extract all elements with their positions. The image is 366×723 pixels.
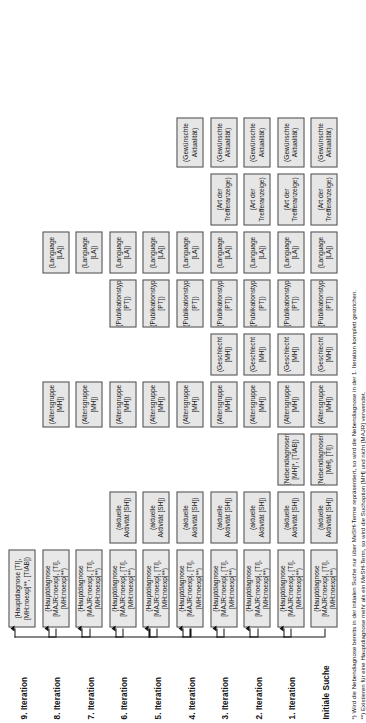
facet-box-aktualitaet: (Gewünschte Aktualität) bbox=[310, 117, 337, 167]
footnotes-block: *) Wird die Nebendiagnose bereits in der… bbox=[348, 79, 366, 719]
facet-box-aktuelleakt: (aktuelle Aktivität [SH]) bbox=[277, 491, 304, 543]
footnote-1: *) Wird die Nebendiagnose bereits in der… bbox=[348, 79, 357, 719]
facet-box-language: (Language [LA]) bbox=[142, 231, 169, 273]
facet-box-hauptdiagnose: (Hauptdiagnose [MAJR:noexp], [TI], [MH:n… bbox=[310, 549, 337, 627]
facet-box-geschlecht: (Geschlecht [MH]) bbox=[243, 333, 270, 375]
facet-box-publikationstyp: (Publikationstyp [PT]) bbox=[176, 279, 203, 327]
facet-box-altersgruppe: (Altersgruppe [MH]) bbox=[142, 381, 169, 427]
row-label-9-iteration: 9. Iteration bbox=[8, 633, 38, 719]
facet-box-publikationstyp: (Publikationstyp [PT]) bbox=[109, 279, 136, 327]
facet-box-altersgruppe: (Altersgruppe [MH]) bbox=[277, 381, 304, 427]
facet-box-language: (Language [LA]) bbox=[109, 231, 136, 273]
facet-box-aktuelleakt: (aktuelle Aktivität [SH]) bbox=[109, 491, 136, 543]
footnote-2: **) Existieren für eine Hauptdiagnose me… bbox=[357, 79, 366, 719]
row-label-8-iteration: 8. Iteration bbox=[42, 633, 72, 719]
facet-box-publikationstyp: (Publikationstyp [PT]) bbox=[277, 279, 304, 327]
facet-box-publikationstyp: (Publikationstyp [PT]) bbox=[310, 279, 337, 327]
connector-arrowhead bbox=[212, 625, 216, 631]
facet-box-nebendiagnosen: (Nebendiagnosen [MH]*, [TIAB]) bbox=[277, 433, 304, 485]
row-label-4-iteration: 4. Iteration bbox=[176, 633, 206, 719]
row-label-1-iteration: 1. Iteration bbox=[277, 633, 307, 719]
facet-box-language: (Language [LA]) bbox=[75, 231, 102, 273]
facet-box-geschlecht: (Geschlecht [MH]) bbox=[310, 333, 337, 375]
row-label-6-iteration: 6. Iteration bbox=[109, 633, 139, 719]
facet-box-hauptdiagnose: (Hauptdiagnose [MAJR:noexp], [TI], [MH:n… bbox=[75, 549, 102, 627]
facet-box-publikationstyp: (Publikationstyp [PT]) bbox=[243, 279, 270, 327]
connector-arrowhead bbox=[144, 625, 148, 631]
facet-box-trefferanzeige: (Art der Trefferanzeige) bbox=[277, 173, 304, 225]
facet-box-hauptdiagnose: (Hauptdiagnose [MAJR:noexp], [TI], [MH:n… bbox=[109, 549, 136, 627]
connector-arrowhead bbox=[245, 625, 249, 631]
facet-box-hauptdiagnose: (Hauptdiagnose [TI], [MH:noexp]**, [TIAB… bbox=[8, 549, 35, 627]
connector-arrowhead bbox=[111, 625, 115, 631]
facet-box-hauptdiagnose: (Hauptdiagnose [MAJR:noexp], [TI], [MH:n… bbox=[243, 549, 270, 627]
connector-arrowhead bbox=[10, 625, 14, 631]
facet-box-aktualitaet: (Gewünschte Aktualität) bbox=[210, 117, 237, 167]
facet-box-aktualitaet: (Gewünschte Aktualität) bbox=[176, 117, 203, 167]
facet-box-language: (Language [LA]) bbox=[310, 231, 337, 273]
facet-box-aktuelleakt: (aktuelle Aktivität [SH]) bbox=[210, 491, 237, 543]
facet-box-aktuelleakt: (aktuelle Aktivität [SH]) bbox=[310, 491, 337, 543]
facet-box-aktualitaet: (Gewünschte Aktualität) bbox=[243, 117, 270, 167]
facet-box-hauptdiagnose: (Hauptdiagnose [MAJR:noexp], [TI], [MH:n… bbox=[277, 549, 304, 627]
facet-box-hauptdiagnose: (Hauptdiagnose [MAJR:noexp], [TI], [MH:n… bbox=[142, 549, 169, 627]
facet-box-altersgruppe: (Altersgruppe [MH]) bbox=[42, 381, 69, 427]
facet-box-language: (Language [LA]) bbox=[243, 231, 270, 273]
facet-box-aktuelleakt: (aktuelle Aktivität [SH]) bbox=[176, 491, 203, 543]
connector-arrowhead bbox=[178, 625, 182, 631]
facet-box-hauptdiagnose: (Hauptdiagnose [MAJR:noexp], [TI], [MH:n… bbox=[42, 549, 69, 627]
facet-box-trefferanzeige: (Art der Trefferanzeige) bbox=[310, 173, 337, 225]
facet-box-language: (Language [LA]) bbox=[210, 231, 237, 273]
facet-box-publikationstyp: (Publikationstyp [PT]) bbox=[210, 279, 237, 327]
connector-arrowhead bbox=[279, 625, 283, 631]
facet-box-language: (Language [LA]) bbox=[42, 231, 69, 273]
facet-box-language: (Language [LA]) bbox=[277, 231, 304, 273]
connector-arrowhead bbox=[77, 625, 81, 631]
facet-box-nebendiagnosen: (Nebendiagnosen [MH], [TI]) bbox=[310, 433, 337, 485]
facet-box-altersgruppe: (Altersgruppe [MH]) bbox=[109, 381, 136, 427]
row-label-3-iteration: 3. Iteration bbox=[210, 633, 240, 719]
facet-box-geschlecht: (Geschlecht [MH]) bbox=[277, 333, 304, 375]
connector-arrowhead bbox=[44, 625, 48, 631]
facet-box-altersgruppe: (Altersgruppe [MH]) bbox=[75, 381, 102, 427]
facet-box-trefferanzeige: (Art der Trefferanzeige) bbox=[210, 173, 237, 225]
facet-box-aktuelleakt: (aktuelle Aktivität [SH]) bbox=[142, 491, 169, 543]
facet-box-language: (Language [LA]) bbox=[176, 231, 203, 273]
facet-box-trefferanzeige: (Art der Trefferanzeige) bbox=[243, 173, 270, 225]
facet-box-altersgruppe: (Altersgruppe [MH]) bbox=[310, 381, 337, 427]
row-label-7-iteration: 7. Iteration bbox=[75, 633, 105, 719]
row-label-initiale-suche: Initiale Suche bbox=[310, 633, 340, 719]
facet-box-aktualitaet: (Gewünschte Aktualität) bbox=[277, 117, 304, 167]
facet-box-publikationstyp: (Publikationstyp [PT]) bbox=[142, 279, 169, 327]
row-label-2-iteration: 2. Iteration bbox=[243, 633, 273, 719]
facet-box-altersgruppe: (Altersgruppe [MH]) bbox=[243, 381, 270, 427]
facet-box-hauptdiagnose: (Hauptdiagnose [MAJR:noexp], [TI], [MH:n… bbox=[176, 549, 203, 627]
facet-box-altersgruppe: (Altersgruppe [MH]) bbox=[176, 381, 203, 427]
facet-box-hauptdiagnose: (Hauptdiagnose [MAJR:noexp], [TI], [MH:n… bbox=[210, 549, 237, 627]
facet-box-altersgruppe: (Altersgruppe [MH]) bbox=[210, 381, 237, 427]
row-label-5-iteration: 5. Iteration bbox=[142, 633, 172, 719]
facet-box-aktuelleakt: (aktuelle Aktivität [SH]) bbox=[243, 491, 270, 543]
facet-box-geschlecht: (Geschlecht [MH]) bbox=[210, 333, 237, 375]
